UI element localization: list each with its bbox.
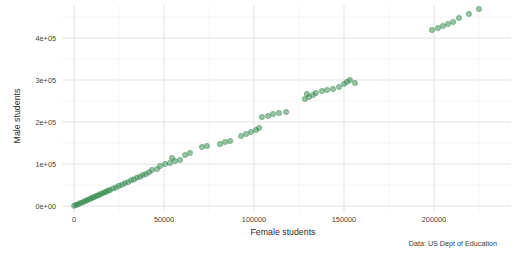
data-point [347,77,352,82]
y-tick-label: 0e+00 [36,202,57,211]
data-point [182,152,187,157]
data-point [330,86,335,91]
data-point [456,15,461,20]
data-point [238,133,243,138]
plot-canvas: 050000100000150000200000 0e+001e+052e+05… [0,0,516,259]
data-point [227,138,232,143]
points-layer [71,6,481,208]
data-point [222,139,227,144]
data-point [167,160,172,165]
data-point [304,91,309,96]
y-tick-label: 4e+05 [36,34,57,43]
data-point [336,84,341,89]
data-point [149,167,154,172]
data-point [276,110,281,115]
data-point [429,27,434,32]
data-point [466,11,471,16]
data-point [162,161,167,166]
data-point [313,90,318,95]
x-axis-tick-labels: 050000100000150000200000 [72,215,446,224]
data-point [476,6,481,11]
x-tick-label: 100000 [242,215,266,224]
y-tick-label: 2e+05 [36,118,57,127]
data-point [435,25,440,30]
data-point [445,21,450,26]
data-point [319,88,324,93]
data-point [243,131,248,136]
data-point [352,80,357,85]
data-point [450,19,455,24]
data-point [248,129,253,134]
data-point [157,163,162,168]
y-tick-label: 1e+05 [36,160,57,169]
data-point [256,125,261,130]
data-point [199,144,204,149]
x-tick-label: 200000 [422,215,446,224]
y-tick-label: 3e+05 [36,76,57,85]
data-point [204,143,209,148]
data-point [440,23,445,28]
data-point [177,157,182,162]
x-tick-label: 150000 [332,215,356,224]
data-point [324,87,329,92]
scatter-plot: 050000100000150000200000 0e+001e+052e+05… [0,0,516,259]
data-point [169,155,174,160]
data-point [283,109,288,114]
y-axis-title: Male students [12,88,22,143]
y-axis-tick-labels: 0e+001e+052e+053e+054e+05 [36,34,57,211]
data-point [187,150,192,155]
data-point [217,141,222,146]
data-point [270,111,275,116]
x-axis-title: Female students [250,227,316,237]
x-tick-label: 0 [72,215,76,224]
data-point [259,114,264,119]
data-point [265,113,270,118]
x-tick-label: 50000 [154,215,174,224]
data-source-caption: Data: US Dept of Education [409,239,497,248]
